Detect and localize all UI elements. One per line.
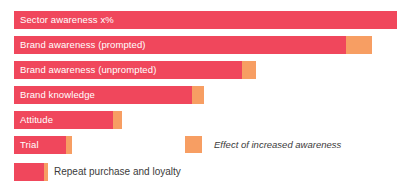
awareness-funnel-chart: Sector awareness x% Brand awareness (pro…: [0, 0, 407, 189]
bar-row: Trial: [14, 136, 72, 154]
bar-segment-primary: Brand awareness (unprompted): [14, 61, 242, 79]
bar-row: Brand awareness (unprompted): [14, 61, 256, 79]
bar-row: Brand awareness (prompted): [14, 36, 372, 54]
bar-segment-primary: Brand knowledge: [14, 86, 192, 104]
bar-segment-effect: [192, 86, 204, 104]
bar-label: Brand awareness (prompted): [20, 40, 146, 50]
bar-row: Brand knowledge: [14, 86, 204, 104]
bar-segment-primary: Brand awareness (prompted): [14, 36, 346, 54]
bar-label: Brand knowledge: [20, 90, 95, 100]
bar-label: Repeat purchase and loyalty: [54, 163, 181, 181]
legend-label: Effect of increased awareness: [214, 139, 341, 150]
bar-segment-primary: Attitude: [14, 111, 113, 129]
legend-effect-of-increased-awareness: Effect of increased awareness: [185, 136, 341, 153]
bar-segment-effect: [66, 136, 72, 154]
bar-row: Attitude: [14, 111, 122, 129]
bar-segment-effect: [346, 36, 372, 54]
bar-segment-primary: Trial: [14, 136, 66, 154]
bar-label: Attitude: [20, 115, 53, 125]
bar-label: Brand awareness (unprompted): [20, 65, 156, 75]
bar-row: Sector awareness x%: [14, 11, 397, 29]
bar-segment-primary: Sector awareness x%: [14, 11, 397, 29]
bar-segment-primary: [14, 163, 44, 181]
bar-segment-effect: [242, 61, 256, 79]
bar-label: Sector awareness x%: [20, 15, 114, 25]
bar-row: [14, 163, 48, 181]
bar-segment-effect: [44, 163, 48, 181]
bar-label: Trial: [20, 140, 39, 150]
bar-segment-effect: [113, 111, 122, 129]
legend-swatch-icon: [185, 136, 202, 153]
